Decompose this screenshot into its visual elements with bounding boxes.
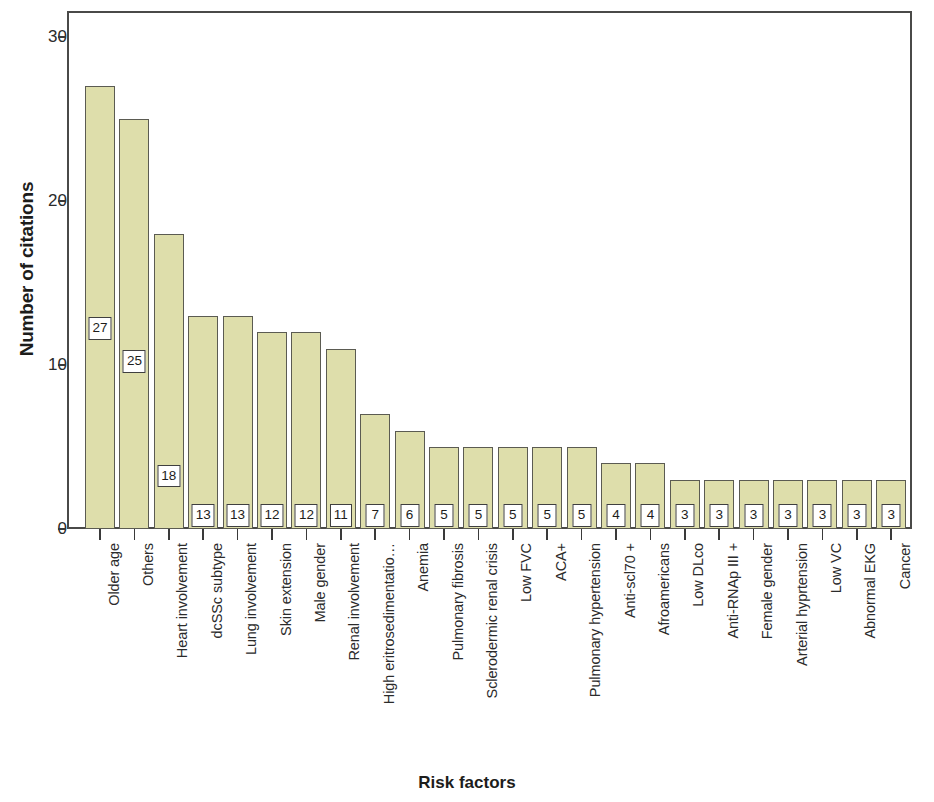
bar-value-label: 7 xyxy=(366,504,385,527)
bar-value-label: 5 xyxy=(538,504,557,527)
bar: 11 xyxy=(326,349,356,529)
bar: 5 xyxy=(532,447,562,529)
bar-value-label: 5 xyxy=(572,504,591,527)
bar: 3 xyxy=(807,480,837,529)
x-tick-label: Sclerodermic renal crisis xyxy=(484,543,500,698)
x-tick-label: Older age xyxy=(106,543,122,606)
x-tick-mark xyxy=(546,529,548,540)
bar: 3 xyxy=(739,480,769,529)
bar: 3 xyxy=(842,480,872,529)
x-tick-label: Pulmonary hypertension xyxy=(587,543,603,697)
bar-value-label: 12 xyxy=(295,504,318,527)
x-tick-mark xyxy=(168,529,170,540)
bar-value-label: 11 xyxy=(330,504,352,527)
x-tick-label: ACA+ xyxy=(553,543,569,581)
x-tick-mark xyxy=(753,529,755,540)
y-tick-mark xyxy=(58,528,66,530)
bar: 12 xyxy=(257,332,287,529)
x-tick-label: Afroamericans xyxy=(656,543,672,635)
bar-value-label: 6 xyxy=(400,504,419,527)
x-tick-mark xyxy=(684,529,686,540)
x-tick-mark xyxy=(822,529,824,540)
x-tick-label: Anemia xyxy=(415,543,431,592)
x-tick-mark xyxy=(650,529,652,540)
bar-value-label: 4 xyxy=(641,504,660,527)
x-tick-label: Renal involvement xyxy=(346,543,362,661)
bar: 5 xyxy=(567,447,597,529)
x-tick-label: Others xyxy=(140,543,156,586)
x-tick-label: Skin extension xyxy=(278,543,294,636)
bar-value-label: 5 xyxy=(469,504,488,527)
x-tick-label: dcSSc subtype xyxy=(209,543,225,638)
bar: 12 xyxy=(291,332,321,529)
bar: 25 xyxy=(119,119,149,529)
bar: 7 xyxy=(360,414,390,529)
x-tick-mark xyxy=(271,529,273,540)
x-tick-label: Female gender xyxy=(759,543,775,639)
bar-chart-figure: Number of citations 0102030 272518131312… xyxy=(0,0,934,802)
bar: 18 xyxy=(154,234,184,529)
x-tick-mark xyxy=(718,529,720,540)
y-tick-mark xyxy=(58,36,66,38)
bar: 3 xyxy=(773,480,803,529)
bar-value-label: 13 xyxy=(226,504,249,527)
bar-value-label: 5 xyxy=(435,504,454,527)
x-tick-mark xyxy=(615,529,617,540)
bar-value-label: 12 xyxy=(260,504,283,527)
x-tick-mark xyxy=(581,529,583,540)
x-tick-label: Pulmonary fibrosis xyxy=(450,543,466,660)
bars-layer: 27251813131212117655555443333333 xyxy=(67,11,912,529)
bar: 6 xyxy=(395,431,425,529)
x-tick-mark xyxy=(890,529,892,540)
x-tick-label: Cancer xyxy=(897,543,913,589)
x-tick-mark xyxy=(787,529,789,540)
x-tick-label: Anti-RNAp III + xyxy=(725,543,741,639)
x-tick-label: Low DLco xyxy=(690,543,706,607)
bar: 3 xyxy=(670,480,700,529)
x-axis-title: Risk factors xyxy=(0,773,934,793)
x-tick-mark xyxy=(99,529,101,540)
bar-value-label: 13 xyxy=(192,504,215,527)
bar: 4 xyxy=(635,463,665,529)
bar: 13 xyxy=(188,316,218,529)
bar-value-label: 3 xyxy=(882,504,901,527)
bar: 27 xyxy=(85,86,115,529)
x-tick-mark xyxy=(512,529,514,540)
x-tick-mark xyxy=(478,529,480,540)
x-tick-label: High eritrosedimentatio… xyxy=(381,543,397,704)
x-tick-mark xyxy=(237,529,239,540)
y-tick-mark xyxy=(58,364,66,366)
x-tick-mark xyxy=(202,529,204,540)
x-tick-label: Lung involvement xyxy=(243,543,259,655)
bar-value-label: 3 xyxy=(847,504,866,527)
x-tick-label: Male gender xyxy=(312,543,328,623)
x-axis: Older ageOthersHeart involvementdcSSc su… xyxy=(67,529,912,802)
x-tick-mark xyxy=(443,529,445,540)
bar: 5 xyxy=(429,447,459,529)
bar: 5 xyxy=(498,447,528,529)
x-tick-label: Heart involvement xyxy=(174,543,190,658)
bar-value-label: 3 xyxy=(710,504,729,527)
y-tick-mark xyxy=(58,200,66,202)
x-tick-mark xyxy=(856,529,858,540)
x-tick-label: Arterial hyprtension xyxy=(794,543,810,666)
bar-value-label: 3 xyxy=(813,504,832,527)
x-tick-label: Low VC xyxy=(828,543,844,593)
x-tick-label: Low FVC xyxy=(518,543,534,602)
bar: 3 xyxy=(704,480,734,529)
bar: 3 xyxy=(876,480,906,529)
bar: 4 xyxy=(601,463,631,529)
bar-value-label: 3 xyxy=(675,504,694,527)
bar-value-label: 5 xyxy=(503,504,522,527)
bar-value-label: 3 xyxy=(779,504,798,527)
bar-value-label: 25 xyxy=(123,350,146,373)
bar-value-label: 27 xyxy=(88,317,111,340)
x-tick-mark xyxy=(340,529,342,540)
bar-value-label: 3 xyxy=(744,504,763,527)
y-axis: 0102030 xyxy=(0,0,67,802)
x-tick-mark xyxy=(134,529,136,540)
x-tick-mark xyxy=(306,529,308,540)
bar-value-label: 18 xyxy=(157,465,180,488)
x-tick-label: Abnormal EKG xyxy=(862,543,878,639)
x-tick-label: Anti-scl70 + xyxy=(622,543,638,618)
